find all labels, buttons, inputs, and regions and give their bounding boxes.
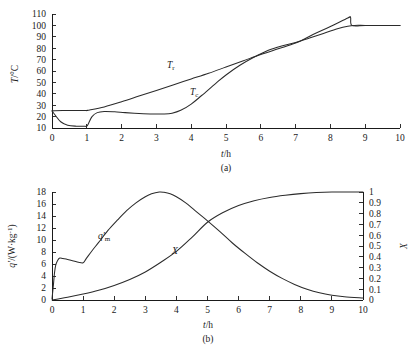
y-axis-left-title-b: q'/(W·kg-1)	[6, 224, 18, 267]
x-tick-label-a: 4	[189, 133, 194, 143]
x-tick-label-b: 9	[330, 305, 335, 315]
y-tick-label-left-b: 10	[37, 235, 47, 245]
x-tick-label-b: 7	[267, 305, 272, 315]
x-tick-label-b: 2	[112, 305, 117, 315]
y-tick-label-right-b: 1	[369, 187, 374, 197]
x-tick-label-b: 5	[205, 305, 210, 315]
x-axis-title-b: t/h	[203, 320, 213, 330]
curve-tr	[52, 17, 400, 111]
y-tick-label-left-b: 6	[41, 259, 46, 269]
y-axis-right-title-b: X	[399, 242, 409, 250]
y-tick-label-right-b: 0.4	[369, 252, 381, 262]
curve-label-x: X	[171, 246, 179, 256]
y-tick-label-right-b: 0.7	[369, 220, 381, 230]
y-tick-label-right-b: 0.2	[369, 274, 381, 284]
chart-b-svg: 024681012141618 00.10.20.30.40.50.60.70.…	[0, 176, 417, 353]
y-tick-label-a: 50	[37, 78, 47, 88]
x-axis-title-a: t/h	[221, 149, 231, 159]
y-tick-label-left-b: 12	[37, 223, 47, 233]
chart-panel-a: 102030405060708090100110 012345678910 Tr…	[0, 0, 417, 176]
y-tick-label-a: 20	[37, 112, 47, 122]
x-tick-label-a: 10	[395, 133, 405, 143]
y-tick-label-left-b: 8	[41, 247, 46, 257]
x-ticks-a: 012345678910	[50, 124, 405, 143]
y-tick-label-left-b: 4	[41, 271, 46, 281]
y-tick-label-a: 40	[37, 89, 47, 99]
curve-q-prime-m	[52, 192, 363, 299]
x-tick-label-a: 5	[224, 133, 229, 143]
x-tick-label-b: 10	[358, 305, 368, 315]
y-tick-label-right-b: 0.3	[369, 263, 381, 273]
panel-caption-a: (a)	[221, 163, 232, 174]
chart-a-axes	[52, 14, 400, 128]
x-tick-label-a: 2	[119, 133, 124, 143]
x-ticks-b: 012345678910	[50, 296, 368, 315]
y-tick-label-right-b: 0.5	[369, 241, 381, 251]
y-tick-label-a: 30	[37, 101, 47, 111]
y-tick-label-left-b: 2	[41, 283, 46, 293]
curve-tc	[52, 25, 400, 126]
chart-b-axes	[52, 192, 363, 300]
y-tick-label-a: 80	[37, 44, 47, 54]
x-tick-label-a: 0	[50, 133, 55, 143]
x-tick-label-a: 3	[154, 133, 159, 143]
y-tick-label-a: 110	[32, 9, 46, 19]
panel-caption-b: (b)	[202, 334, 213, 345]
curve-label-tr: Tr	[167, 60, 175, 72]
chart-a-svg: 102030405060708090100110 012345678910 Tr…	[0, 0, 417, 176]
y-tick-label-a: 10	[37, 123, 47, 133]
figure-container: 102030405060708090100110 012345678910 Tr…	[0, 0, 417, 353]
y-ticks-right-b: 00.10.20.30.40.50.60.70.80.91	[359, 187, 381, 305]
x-tick-label-a: 9	[363, 133, 368, 143]
y-axis-title-a: T/°C	[10, 65, 20, 83]
curve-label-tc: Tc	[190, 87, 198, 99]
chart-panel-b: 024681012141618 00.10.20.30.40.50.60.70.…	[0, 176, 417, 353]
y-tick-label-a: 60	[37, 66, 47, 76]
y-tick-label-left-b: 0	[41, 295, 46, 305]
y-tick-label-right-b: 0.8	[369, 209, 381, 219]
x-tick-label-b: 3	[143, 305, 148, 315]
x-tick-label-b: 4	[174, 305, 179, 315]
x-tick-label-b: 6	[236, 305, 241, 315]
y-tick-label-right-b: 0.9	[369, 198, 381, 208]
x-tick-label-b: 0	[50, 305, 55, 315]
y-tick-label-right-b: 0.6	[369, 231, 381, 241]
x-tick-label-b: 1	[81, 305, 86, 315]
x-tick-label-a: 8	[328, 133, 333, 143]
x-tick-label-a: 6	[258, 133, 263, 143]
x-tick-label-a: 1	[84, 133, 89, 143]
y-tick-label-left-b: 14	[37, 211, 47, 221]
x-tick-label-b: 8	[298, 305, 303, 315]
y-tick-label-a: 100	[32, 21, 47, 31]
y-tick-label-left-b: 18	[37, 187, 47, 197]
y-tick-label-left-b: 16	[37, 199, 47, 209]
y-tick-label-a: 90	[37, 32, 47, 42]
y-tick-label-a: 70	[37, 55, 47, 65]
curve-x-conversion	[52, 192, 363, 300]
y-tick-label-right-b: 0	[369, 295, 374, 305]
x-tick-label-a: 7	[293, 133, 298, 143]
y-tick-label-right-b: 0.1	[369, 285, 381, 295]
